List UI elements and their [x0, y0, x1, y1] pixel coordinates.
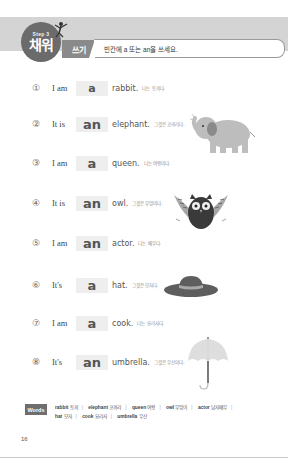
- elephant-icon: [188, 110, 256, 158]
- exercise-translation: 나는 요리사다.: [137, 320, 164, 326]
- instruction-box: 빈칸에 a 또는 an을 쓰세요.: [94, 39, 285, 58]
- exercise-translation: 그것은 코끼리다.: [154, 121, 185, 127]
- exercise-subject: It is: [52, 198, 76, 208]
- exercise-row-3: ③ I am a queen. 나는 여왕이다.: [32, 154, 170, 172]
- exercise-row-2: ② It is an elephant. 그것은 코끼리다.: [32, 115, 184, 133]
- exercise-subject: It is: [52, 119, 76, 129]
- owl-icon: [170, 191, 232, 231]
- exercise-translation: 나는 배우다.: [138, 240, 161, 246]
- exercise-row-1: ① I am a rabbit. 나는 토끼다.: [32, 79, 165, 97]
- word-en: cook: [82, 414, 93, 419]
- exercise-noun: elephant.: [112, 120, 150, 129]
- word-ko: 요리사: [95, 414, 107, 419]
- word-ko: 모자: [64, 414, 72, 419]
- exercise-number: ⑧: [32, 357, 52, 367]
- word-en: elephant: [88, 405, 108, 410]
- exercise-row-8: ⑧ It's an umbrella. 그것은 우산이다.: [32, 353, 184, 371]
- divider: |: [159, 405, 160, 410]
- umbrella-icon: [186, 337, 230, 393]
- exercise-row-6: ⑥ It's a hat. 그것은 모자다.: [32, 276, 158, 294]
- words-section: Words rabbit 토끼| elephant 코끼리| queen 여왕|…: [25, 403, 275, 421]
- answer-box[interactable]: an: [76, 236, 108, 251]
- exercise-noun: actor.: [112, 239, 134, 248]
- exercise-translation: 나는 여왕이다.: [144, 160, 171, 166]
- exercise-subject: I am: [52, 158, 76, 168]
- words-label: Words: [25, 404, 47, 415]
- word-en: owl: [166, 405, 174, 410]
- exercise-number: ⑦: [32, 318, 52, 328]
- bottom-divider: [0, 457, 288, 458]
- divider: |: [111, 414, 112, 419]
- exercise-row-4: ④ It is an owl. 그것은 부엉이다.: [32, 194, 163, 212]
- words-list: rabbit 토끼| elephant 코끼리| queen 여왕| owl 부…: [55, 403, 275, 421]
- word-en: umbrella: [117, 414, 137, 419]
- exercise-number: ③: [32, 158, 52, 168]
- exercise-translation: 그것은 부엉이다.: [132, 200, 163, 206]
- exercise-subject: I am: [52, 238, 76, 248]
- exercise-noun: cook.: [112, 319, 133, 328]
- word-en: hat: [55, 414, 62, 419]
- word-en: rabbit: [55, 405, 68, 410]
- exercise-noun: rabbit.: [112, 84, 138, 93]
- answer-box[interactable]: a: [76, 278, 108, 293]
- divider: |: [191, 405, 192, 410]
- exercise-number: ②: [32, 119, 52, 129]
- answer-box[interactable]: an: [76, 117, 108, 132]
- exercise-noun: queen.: [112, 159, 140, 168]
- exercise-number: ④: [32, 198, 52, 208]
- exercise-subject: It's: [52, 280, 76, 290]
- word-en: queen: [132, 405, 146, 410]
- exercise-noun: owl.: [112, 199, 128, 208]
- word-ko: 남자배우: [211, 405, 227, 410]
- badge-title: 채워: [29, 38, 54, 52]
- word-ko: 코끼리: [109, 405, 121, 410]
- exercise-noun: hat.: [112, 281, 128, 290]
- exercise-number: ⑥: [32, 280, 52, 290]
- instruction-text: 빈칸에 a 또는 an을 쓰세요.: [104, 44, 178, 54]
- word-ko: 여왕: [147, 405, 155, 410]
- answer-box[interactable]: an: [76, 355, 108, 370]
- exercise-row-5: ⑤ I am an actor. 나는 배우다.: [32, 234, 161, 252]
- answer-box[interactable]: a: [76, 316, 108, 331]
- exercise-translation: 그것은 우산이다.: [154, 359, 185, 365]
- divider: |: [125, 405, 126, 410]
- answer-box[interactable]: a: [76, 156, 108, 171]
- answer-box[interactable]: an: [76, 196, 108, 211]
- divider: |: [76, 414, 77, 419]
- exercise-row-7: ⑦ I am a cook. 나는 요리사다.: [32, 314, 164, 332]
- exercise-number: ⑤: [32, 238, 52, 248]
- exercise-number: ①: [32, 83, 52, 93]
- exercise-subject: I am: [52, 318, 76, 328]
- divider: |: [231, 405, 232, 410]
- exercise-subject: I am: [52, 83, 76, 93]
- word-ko: 우산: [139, 414, 147, 419]
- divider: |: [82, 405, 83, 410]
- answer-box[interactable]: a: [76, 81, 108, 96]
- exercise-translation: 그것은 모자다.: [132, 282, 159, 288]
- word-ko: 토끼: [70, 405, 78, 410]
- page-number: 16: [21, 436, 28, 442]
- word-en: actor: [198, 405, 210, 410]
- hat-icon: [163, 274, 219, 298]
- word-ko: 부엉이: [175, 405, 187, 410]
- cheering-figure-icon: [53, 20, 71, 38]
- exercise-translation: 나는 토끼다.: [142, 85, 165, 91]
- exercise-noun: umbrella.: [112, 358, 150, 367]
- exercise-subject: It's: [52, 357, 76, 367]
